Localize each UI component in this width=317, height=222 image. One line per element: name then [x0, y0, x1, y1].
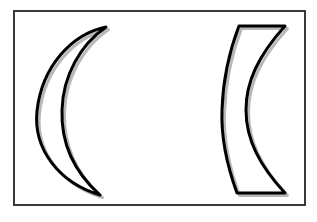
figure-canvas [0, 0, 317, 222]
figure-root: Two crescent outline shapes Crescent moo… [0, 0, 317, 222]
canvas-background [0, 0, 317, 222]
